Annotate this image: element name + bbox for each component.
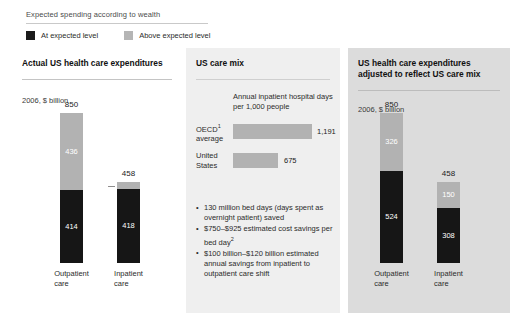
left-outpatient-expected-value: 414 — [65, 223, 78, 231]
legend: Expected spending according to wealth At… — [26, 10, 266, 40]
list-item: 130 million bed days (days spent as over… — [196, 203, 334, 223]
bullet-text-2: $750–$925 estimated cost savings per bed… — [204, 224, 332, 247]
right-outpatient-expected-value: 524 — [385, 213, 398, 221]
legend-item-at-expected: At expected level — [26, 31, 98, 40]
left-inpatient-leader-line — [108, 186, 115, 187]
panel-adjusted-expenditures: US health care expenditures adjusted to … — [348, 48, 510, 313]
left-column-chart: 850 436 414 Outpatient care 458 — [22, 83, 182, 313]
right-inpatient-total: 458 — [442, 169, 455, 178]
bar-row-oecd-label: OECD1 average — [196, 122, 232, 144]
bullet-2-footnote-marker: 2 — [231, 236, 234, 242]
legend-label-at-expected: At expected level — [41, 31, 98, 40]
left-outpatient-above-value: 436 — [65, 148, 78, 156]
left-outpatient-label: Outpatient care — [54, 269, 89, 288]
right-inpatient-expected-segment[interactable]: 308 — [437, 208, 460, 263]
legend-item-above-expected: Above expected level — [124, 31, 210, 40]
bar-row-us-label-line2: States — [196, 161, 217, 170]
infographic-root: Expected spending according to wealth At… — [0, 0, 520, 328]
bar-row-oecd[interactable]: OECD1 average 1,191 — [196, 124, 332, 142]
legend-label-above-expected: Above expected level — [139, 31, 210, 40]
bullet-text-3: $100 billion–$120 billion estimated annu… — [204, 249, 319, 278]
left-column-outpatient[interactable]: 850 436 414 Outpatient care — [60, 113, 83, 263]
list-item: $100 billion–$120 billion estimated annu… — [196, 249, 334, 279]
right-inpatient-label-line2: care — [434, 279, 449, 288]
right-outpatient-label-line1: Outpatient — [374, 269, 409, 278]
right-column-outpatient[interactable]: 850 326 524 Outpatient care — [380, 113, 403, 263]
legend-swatch-dark-icon — [26, 31, 35, 40]
bar-row-united-states[interactable]: United States 675 — [196, 153, 332, 171]
bar-row-oecd-label-line1: OECD — [196, 125, 218, 134]
right-outpatient-above-value: 326 — [385, 138, 398, 146]
panel-mid-divider — [196, 79, 330, 80]
bar-row-us-label-line1: United — [196, 151, 218, 160]
right-inpatient-above-value: 150 — [442, 191, 455, 199]
left-outpatient-label-line1: Outpatient — [54, 269, 89, 278]
legend-title: Expected spending according to wealth — [26, 10, 266, 19]
right-inpatient-label-line1: Inpatient — [434, 269, 463, 278]
right-inpatient-above-segment[interactable]: 150 — [437, 182, 460, 208]
bar-united-states[interactable] — [233, 153, 278, 168]
right-inpatient-expected-value: 308 — [442, 232, 455, 240]
panel-actual-expenditures: Actual US health care expenditures 2006,… — [22, 48, 182, 313]
panel-right-title: US health care expenditures adjusted to … — [358, 58, 502, 80]
bar-oecd[interactable] — [233, 124, 312, 139]
panel-us-care-mix: US care mix Annual inpatient hospital da… — [186, 48, 340, 313]
left-inpatient-above-value: 40 — [100, 182, 108, 190]
right-inpatient-label: Inpatient care — [434, 269, 463, 288]
bar-row-oecd-label-line2: average — [196, 134, 223, 143]
bullet-text-1: 130 million bed days (days spent as over… — [204, 203, 323, 222]
right-outpatient-expected-segment[interactable]: 524 — [380, 171, 403, 263]
legend-swatch-light-icon — [124, 31, 133, 40]
left-inpatient-above-segment[interactable]: 40 — [117, 182, 140, 189]
left-outpatient-above-segment[interactable]: 436 — [60, 113, 83, 190]
left-inpatient-label-line1: Inpatient — [114, 269, 143, 278]
left-inpatient-expected-value: 418 — [122, 222, 135, 230]
panel-left-divider — [22, 79, 172, 80]
right-outpatient-total: 850 — [385, 100, 398, 109]
left-inpatient-label: Inpatient care — [114, 269, 143, 288]
bar-united-states-value: 675 — [284, 156, 297, 165]
left-column-inpatient[interactable]: 458 40 418 Inpatient care — [117, 182, 140, 263]
right-outpatient-label: Outpatient care — [374, 269, 409, 288]
left-outpatient-total: 850 — [65, 100, 78, 109]
left-inpatient-label-line2: care — [114, 279, 129, 288]
mid-chart-heading: Annual inpatient hospital days per 1,000… — [233, 92, 333, 112]
bar-row-oecd-footnote-marker: 1 — [218, 123, 221, 129]
panel-left-title: Actual US health care expenditures — [22, 58, 172, 69]
right-column-chart: 850 326 524 Outpatient care 458 — [348, 83, 510, 313]
legend-items: At expected level Above expected level — [26, 31, 266, 40]
left-outpatient-label-line2: care — [54, 279, 69, 288]
right-outpatient-label-line2: care — [374, 279, 389, 288]
legend-divider — [26, 23, 208, 24]
left-outpatient-expected-segment[interactable]: 414 — [60, 190, 83, 263]
mid-bullet-list: 130 million bed days (days spent as over… — [196, 203, 334, 280]
left-inpatient-total: 458 — [122, 169, 135, 178]
left-inpatient-expected-segment[interactable]: 418 — [117, 189, 140, 263]
bar-oecd-value: 1,191 — [317, 127, 336, 136]
right-outpatient-above-segment[interactable]: 326 — [380, 113, 403, 171]
bar-row-us-label: United States — [196, 151, 232, 170]
right-column-inpatient[interactable]: 458 150 308 Inpatient care — [437, 182, 460, 263]
list-item: $750–$925 estimated cost savings per bed… — [196, 224, 334, 248]
panel-mid-title: US care mix — [196, 58, 332, 69]
